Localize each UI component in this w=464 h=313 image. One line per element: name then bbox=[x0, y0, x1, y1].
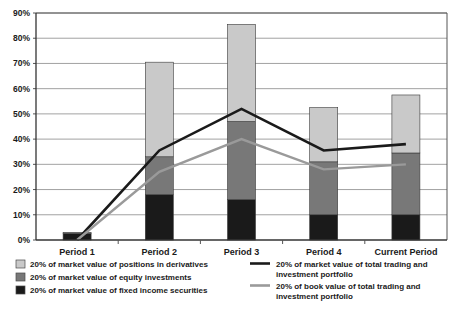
x-axis-label: Period 3 bbox=[224, 247, 260, 257]
bar-segment bbox=[145, 195, 173, 240]
legend-label: 20% of market value of equity investment… bbox=[30, 273, 192, 282]
y-axis-tick-label: 80% bbox=[13, 33, 30, 43]
bar-segment bbox=[228, 200, 256, 240]
y-axis-tick-label: 90% bbox=[13, 8, 30, 18]
legend-swatch bbox=[16, 260, 25, 268]
legend-label: 20% of market value of total trading and bbox=[276, 260, 428, 269]
bar-segment bbox=[392, 153, 420, 215]
legend-swatch bbox=[16, 286, 25, 294]
y-axis-tick-label: 20% bbox=[13, 185, 30, 195]
legend-label: 20% of book value of total trading and bbox=[276, 282, 421, 291]
legend-label-second-line: investment portfolio bbox=[276, 270, 353, 279]
legend-label-second-line: investment portfolio bbox=[276, 292, 353, 301]
y-axis-tick-label: 0% bbox=[18, 235, 31, 245]
legend-left-group: 20% of market value of positions in deri… bbox=[16, 260, 208, 295]
bar-segment bbox=[310, 108, 338, 162]
y-axis-tick-label: 50% bbox=[13, 109, 30, 119]
bar-segment bbox=[392, 215, 420, 240]
x-axis-label: Period 1 bbox=[59, 247, 95, 257]
legend-label: 20% of market value of fixed income secu… bbox=[30, 286, 208, 295]
legend-label: 20% of market value of positions in deri… bbox=[30, 260, 208, 269]
y-axis-tick-label: 40% bbox=[13, 134, 30, 144]
x-axis-label: Period 4 bbox=[306, 247, 342, 257]
legend-swatch bbox=[16, 273, 25, 281]
bar-segment bbox=[228, 121, 256, 199]
y-axis-tick-label: 60% bbox=[13, 84, 30, 94]
x-axis-label: Current Period bbox=[374, 247, 437, 257]
chart-container: 90%80%70%60%50%40%30%20%10%0% Period 1Pe… bbox=[0, 0, 464, 313]
y-axis-tick-label: 70% bbox=[13, 58, 30, 68]
bar-segment bbox=[145, 62, 173, 157]
bar-segment bbox=[228, 24, 256, 121]
x-axis-label: Period 2 bbox=[142, 247, 178, 257]
chart-svg: 90%80%70%60%50%40%30%20%10%0% Period 1Pe… bbox=[0, 0, 464, 313]
bar-segment bbox=[310, 215, 338, 240]
y-axis-tick-label: 30% bbox=[13, 159, 30, 169]
y-axis-tick-label: 10% bbox=[13, 210, 30, 220]
